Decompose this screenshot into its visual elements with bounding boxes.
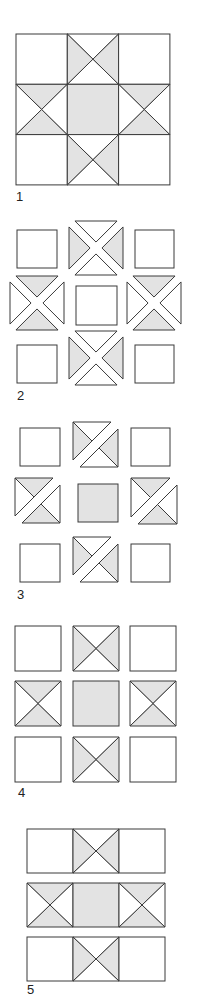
plain-square (15, 737, 61, 782)
figure-3-label: 3 (17, 588, 24, 601)
plain-square (20, 544, 60, 582)
figure-1-label: 1 (16, 190, 23, 203)
plain-square (119, 937, 165, 981)
plain-square (27, 829, 73, 873)
shaded-center-square (73, 883, 119, 927)
figure-3 (15, 422, 177, 582)
figure-5 (27, 829, 165, 981)
plain-square (76, 286, 117, 325)
plain-square (119, 829, 165, 873)
plain-square (20, 428, 60, 466)
plain-square (16, 135, 67, 185)
figure-2-label: 2 (17, 389, 24, 402)
plain-square (15, 626, 61, 671)
plain-square (131, 428, 170, 466)
plain-square (17, 345, 57, 383)
plain-square (119, 135, 170, 185)
figure-4-label: 4 (18, 786, 25, 799)
plain-square (135, 345, 174, 383)
plain-square (131, 544, 170, 582)
plain-square (17, 230, 57, 268)
shaded-center-square (67, 84, 118, 134)
shaded-center-square (78, 484, 118, 522)
plain-square (135, 230, 174, 268)
quilt-block-diagram (0, 0, 197, 998)
figure-5-label: 5 (27, 983, 34, 996)
figure-2 (10, 221, 181, 385)
shaded-center-square (73, 681, 119, 726)
plain-square (16, 34, 67, 84)
plain-square (130, 626, 176, 671)
plain-square (130, 737, 176, 782)
figure-1 (16, 34, 170, 185)
figure-4 (15, 626, 176, 782)
plain-square (119, 34, 170, 84)
plain-square (27, 937, 73, 981)
